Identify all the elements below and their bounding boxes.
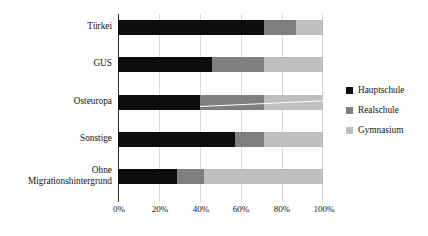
xtick-label-20: 20% [152, 204, 169, 214]
segment-sonstige-realschule [235, 132, 264, 147]
category-label-gus: GUS [93, 58, 112, 69]
legend-item-realschule: Realschule [346, 100, 428, 120]
segment-turkei-realschule [264, 20, 297, 35]
xtick-label-0: 0% [113, 204, 125, 214]
segment-osteuropa-hauptschule [118, 95, 200, 110]
legend-label-gymnasium: Gymnasium [358, 125, 403, 135]
stacked-bar-chart: Türkei GUS Osteuropa Sonstige Ohne Migra… [0, 0, 428, 236]
segment-sonstige-gymnasium [264, 132, 323, 147]
legend-swatch-gymnasium-icon [346, 127, 353, 134]
segment-gus-gymnasium [264, 57, 323, 72]
segment-gus-realschule [212, 57, 263, 72]
segment-ohne-gymnasium [204, 169, 323, 184]
bar-sonstige [118, 132, 323, 147]
xtick-label-60: 60% [233, 204, 250, 214]
segment-gus-hauptschule [118, 57, 212, 72]
segment-ohne-realschule [177, 169, 204, 184]
bar-ohne-migrationshintergrund [118, 169, 323, 184]
bar-gus [118, 57, 323, 72]
xtick-label-80: 80% [274, 204, 291, 214]
xtick-label-100: 100% [314, 204, 335, 214]
legend-swatch-hauptschule-icon [346, 87, 353, 94]
category-label-sonstige: Sonstige [80, 133, 112, 144]
category-label-turkei: Türkei [87, 21, 112, 32]
legend-label-realschule: Realschule [358, 105, 399, 115]
x-axis-tick-labels: 0% 20% 40% 60% 80% 100% [0, 204, 428, 220]
xtick-label-40: 40% [193, 204, 210, 214]
legend-label-hauptschule: Hauptschule [358, 85, 404, 95]
plot-area [118, 14, 323, 202]
chart-legend: Hauptschule Realschule Gymnasium [346, 80, 428, 140]
y-axis-category-labels: Türkei GUS Osteuropa Sonstige Ohne Migra… [0, 0, 116, 236]
segment-sonstige-hauptschule [118, 132, 235, 147]
category-label-ohne-migrationshintergrund-line2: Migrationshintergrund [28, 176, 112, 187]
segment-turkei-gymnasium [296, 20, 323, 35]
segment-turkei-hauptschule [118, 20, 264, 35]
segment-ohne-hauptschule [118, 169, 177, 184]
bar-osteuropa [118, 95, 323, 110]
legend-item-hauptschule: Hauptschule [346, 80, 428, 100]
category-label-ohne-migrationshintergrund-line1: Ohne [92, 165, 112, 176]
bar-turkei [118, 20, 323, 35]
segment-osteuropa-realschule [200, 95, 264, 110]
legend-swatch-realschule-icon [346, 107, 353, 114]
category-label-osteuropa: Osteuropa [74, 96, 112, 107]
legend-item-gymnasium: Gymnasium [346, 120, 428, 140]
